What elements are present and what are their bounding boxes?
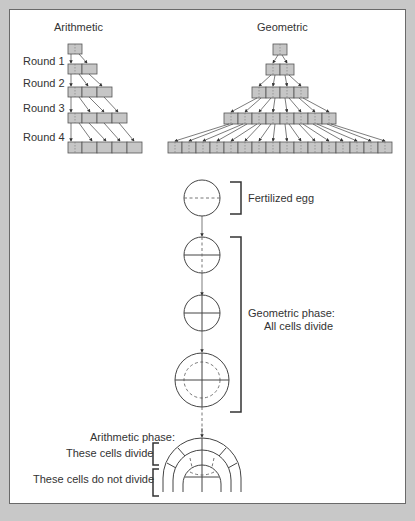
arithmetic-pyramid — [68, 44, 142, 153]
these-cells-do-not-divide-label: These cells do not divide — [33, 473, 154, 485]
geometric-pyramid — [168, 44, 392, 153]
round-1-label: Round 1 — [23, 55, 65, 67]
these-cells-divide-label: These cells divide — [66, 447, 153, 459]
round-4-label: Round 4 — [23, 131, 65, 143]
embryo-sequence: Fertilized egg Geometric phase: All cell… — [33, 180, 335, 496]
arithmetic-title: Arithmetic — [54, 21, 103, 33]
geometric-phase-label-line1: Geometric phase: — [248, 307, 335, 319]
round-2-label: Round 2 — [23, 77, 65, 89]
geometric-phase-label-line2: All cells divide — [264, 320, 333, 332]
geometric-title: Geometric — [257, 21, 308, 33]
round-3-label: Round 3 — [23, 102, 65, 114]
diagram-canvas: Arithmetic Round 1 Round 2 Round 3 Round… — [0, 0, 415, 521]
arithmetic-phase-label: Arithmetic phase: — [90, 431, 175, 443]
fertilized-egg-label: Fertilized egg — [248, 192, 314, 204]
